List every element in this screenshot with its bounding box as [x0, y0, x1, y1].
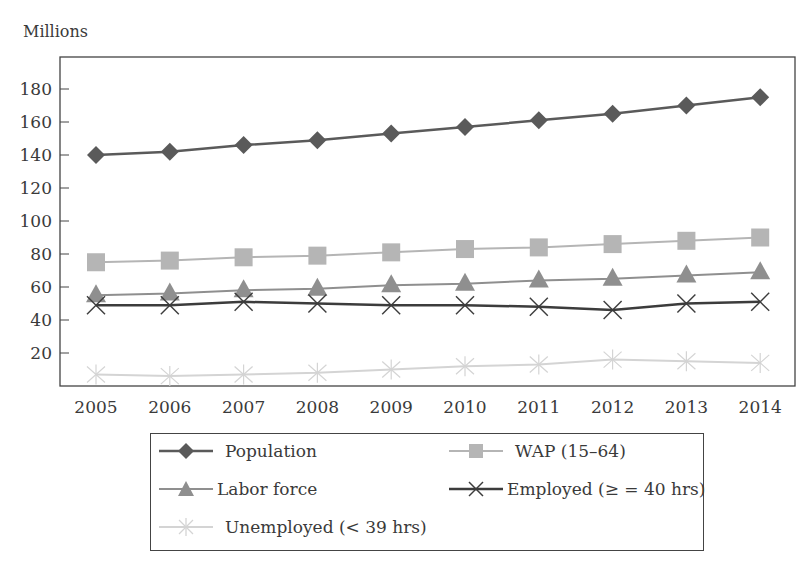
y-tick-label: 100: [20, 211, 52, 231]
line-chart: 2040608010012014016018020052006200720082…: [0, 0, 812, 430]
square-marker-icon: [447, 440, 505, 462]
chart-legend: Population WAP (15–64) Labor force Emplo…: [150, 433, 704, 551]
x-tick-label: 2010: [443, 397, 486, 417]
triangle-marker-icon: [157, 478, 215, 500]
x-marker-icon: [447, 478, 505, 500]
series-employed-40-hrs: [87, 293, 769, 319]
y-tick-label: 40: [30, 310, 52, 330]
x-tick-label: 2011: [517, 397, 560, 417]
legend-label: Employed (≥ = 40 hrs): [507, 479, 705, 499]
y-axis: 20406080100120140160180: [20, 79, 69, 363]
series-population: [87, 88, 769, 164]
x-tick-label: 2007: [222, 397, 265, 417]
diamond-marker-icon: [157, 440, 215, 462]
legend-label: Unemployed (< 39 hrs): [225, 517, 427, 537]
series-unemployed-39-hrs: [87, 350, 769, 387]
y-tick-label: 60: [30, 277, 52, 297]
x-axis: 2005200620072008200920102011201220132014: [74, 397, 781, 417]
x-tick-label: 2005: [74, 397, 117, 417]
y-tick-label: 160: [20, 112, 52, 132]
legend-label: Labor force: [217, 479, 317, 499]
x-tick-label: 2006: [148, 397, 191, 417]
legend-item-employed: Employed (≥ = 40 hrs): [447, 478, 705, 500]
series-wap-15-64: [87, 229, 769, 272]
asterisk-marker-icon: [157, 516, 215, 538]
y-tick-label: 140: [20, 145, 52, 165]
series-labor-force: [86, 261, 770, 302]
x-tick-label: 2013: [665, 397, 708, 417]
y-tick-label: 80: [30, 244, 52, 264]
x-tick-label: 2012: [591, 397, 634, 417]
x-tick-label: 2014: [739, 397, 782, 417]
legend-label: Population: [225, 441, 317, 461]
legend-item-wap: WAP (15–64): [447, 440, 626, 462]
x-tick-label: 2009: [370, 397, 413, 417]
legend-item-unemployed: Unemployed (< 39 hrs): [157, 516, 427, 538]
legend-item-population: Population: [157, 440, 317, 462]
y-tick-label: 20: [30, 343, 52, 363]
y-tick-label: 120: [20, 178, 52, 198]
legend-label: WAP (15–64): [515, 441, 626, 461]
legend-item-labor-force: Labor force: [157, 478, 317, 500]
y-tick-label: 180: [20, 79, 52, 99]
x-tick-label: 2008: [296, 397, 339, 417]
